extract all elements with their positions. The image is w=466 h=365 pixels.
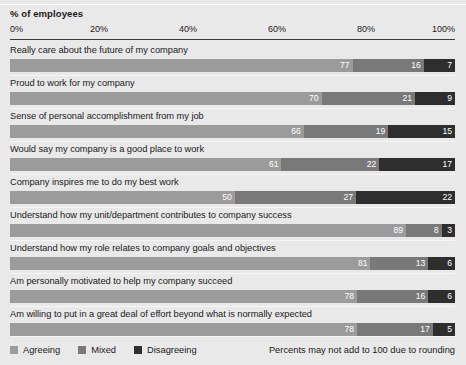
bar-segment-value: 78 bbox=[345, 292, 358, 301]
chart-row: Am personally motivated to help my compa… bbox=[0, 273, 466, 306]
bar-segment-value: 61 bbox=[269, 160, 282, 169]
bar-segment-disagreeing: 15 bbox=[388, 125, 455, 138]
bar-segment-value: 13 bbox=[416, 259, 429, 268]
bar-segment-agreeing: 61 bbox=[10, 158, 281, 171]
x-tick-label: 100% bbox=[432, 24, 455, 34]
bar-segment-value: 16 bbox=[416, 292, 429, 301]
bar-segment-value: 3 bbox=[447, 226, 455, 235]
bar-segment-mixed: 16 bbox=[353, 59, 424, 72]
bar-segment-value: 22 bbox=[367, 160, 380, 169]
bar-segment-agreeing: 50 bbox=[10, 191, 235, 204]
row-label: Understand how my unit/department contri… bbox=[10, 210, 292, 220]
bar-segment-mixed: 16 bbox=[357, 290, 428, 303]
legend-label: Mixed bbox=[91, 345, 116, 355]
bar-segment-value: 21 bbox=[402, 94, 415, 103]
bar-segment-value: 6 bbox=[447, 259, 455, 268]
chart-row: Would say my company is a good place to … bbox=[0, 141, 466, 174]
chart-row: Company inspires me to do my best work50… bbox=[0, 174, 466, 207]
x-tick-label: 80% bbox=[357, 24, 375, 34]
bar-segment-value: 6 bbox=[447, 292, 455, 301]
bar-segment-value: 16 bbox=[411, 61, 424, 70]
bar-segment-value: 8 bbox=[434, 226, 442, 235]
employee-engagement-chart: % of employees 0%20%40%60%80%100% Really… bbox=[0, 0, 466, 365]
row-divider bbox=[10, 273, 455, 274]
bar-segment-value: 89 bbox=[393, 226, 406, 235]
bar-segment-value: 15 bbox=[442, 127, 455, 136]
row-divider bbox=[10, 75, 455, 76]
row-divider bbox=[10, 174, 455, 175]
row-label: Understand how my role relates to compan… bbox=[10, 243, 276, 253]
row-divider bbox=[10, 141, 455, 142]
x-tick-label: 0% bbox=[10, 24, 23, 34]
bar-segment-agreeing: 81 bbox=[10, 257, 370, 270]
bar-segment-value: 50 bbox=[222, 193, 235, 202]
stacked-bar: 612217 bbox=[10, 158, 455, 171]
bar-segment-value: 17 bbox=[442, 160, 455, 169]
bar-segment-value: 77 bbox=[340, 61, 353, 70]
bar-segment-agreeing: 89 bbox=[10, 224, 406, 237]
bar-segment-agreeing: 78 bbox=[10, 323, 357, 336]
bar-segment-mixed: 19 bbox=[304, 125, 389, 138]
chart-footnote: Percents may not add to 100 due to round… bbox=[269, 343, 455, 357]
legend-swatch-icon bbox=[78, 346, 86, 354]
bar-segment-agreeing: 78 bbox=[10, 290, 357, 303]
row-label: Proud to work for my company bbox=[10, 78, 135, 88]
row-divider bbox=[10, 306, 455, 307]
bar-segment-value: 81 bbox=[358, 259, 371, 268]
stacked-bar: 502722 bbox=[10, 191, 455, 204]
x-tick-label: 20% bbox=[90, 24, 108, 34]
bar-segment-disagreeing: 9 bbox=[415, 92, 455, 105]
chart-row: Sense of personal accomplishment from my… bbox=[0, 108, 466, 141]
bar-segment-value: 22 bbox=[442, 193, 455, 202]
row-divider bbox=[10, 207, 455, 208]
legend-swatch-icon bbox=[134, 346, 142, 354]
x-axis-tick-labels: 0%20%40%60%80%100% bbox=[10, 24, 455, 36]
row-divider bbox=[10, 108, 455, 109]
chart-row: Proud to work for my company70219 bbox=[0, 75, 466, 108]
bar-segment-value: 17 bbox=[420, 325, 433, 334]
row-label: Am personally motivated to help my compa… bbox=[10, 276, 232, 286]
stacked-bar: 78175 bbox=[10, 323, 455, 336]
stacked-bar: 661915 bbox=[10, 125, 455, 138]
bar-segment-disagreeing: 6 bbox=[428, 257, 455, 270]
row-divider bbox=[10, 240, 455, 241]
bar-segment-value: 27 bbox=[344, 193, 357, 202]
bar-segment-value: 9 bbox=[447, 94, 455, 103]
stacked-bar: 70219 bbox=[10, 92, 455, 105]
bar-segment-mixed: 27 bbox=[235, 191, 356, 204]
chart-row: Understand how my role relates to compan… bbox=[0, 240, 466, 273]
chart-row: Really care about the future of my compa… bbox=[0, 42, 466, 75]
bar-segment-mixed: 17 bbox=[357, 323, 433, 336]
row-label: Sense of personal accomplishment from my… bbox=[10, 111, 204, 121]
bar-segment-agreeing: 66 bbox=[10, 125, 304, 138]
bar-segment-disagreeing: 3 bbox=[442, 224, 455, 237]
legend-item: Agreeing bbox=[10, 345, 60, 355]
footer-divider bbox=[10, 336, 455, 337]
bar-segment-disagreeing: 22 bbox=[356, 191, 455, 204]
bar-segment-value: 70 bbox=[309, 94, 322, 103]
bar-segment-value: 66 bbox=[291, 127, 304, 136]
bar-segment-value: 7 bbox=[447, 61, 455, 70]
bar-segment-mixed: 22 bbox=[281, 158, 379, 171]
legend-swatch-icon bbox=[10, 346, 18, 354]
row-label: Really care about the future of my compa… bbox=[10, 45, 188, 55]
bar-segment-value: 19 bbox=[376, 127, 389, 136]
bar-segment-agreeing: 77 bbox=[10, 59, 353, 72]
chart-legend: AgreeingMixedDisagreeing bbox=[10, 343, 215, 357]
bar-segment-agreeing: 70 bbox=[10, 92, 322, 105]
x-tick-label: 40% bbox=[179, 24, 197, 34]
bar-segment-disagreeing: 17 bbox=[379, 158, 455, 171]
chart-row: Understand how my unit/department contri… bbox=[0, 207, 466, 240]
legend-item: Disagreeing bbox=[134, 345, 197, 355]
stacked-bar: 81136 bbox=[10, 257, 455, 270]
legend-label: Agreeing bbox=[23, 345, 60, 355]
bar-segment-mixed: 21 bbox=[322, 92, 415, 105]
bar-segment-value: 5 bbox=[447, 325, 455, 334]
stacked-bar: 77167 bbox=[10, 59, 455, 72]
legend-item: Mixed bbox=[78, 345, 116, 355]
stacked-bar: 8983 bbox=[10, 224, 455, 237]
bar-segment-disagreeing: 5 bbox=[433, 323, 455, 336]
bar-segment-value: 78 bbox=[345, 325, 358, 334]
bar-segment-disagreeing: 7 bbox=[424, 59, 455, 72]
chart-rows: Really care about the future of my compa… bbox=[0, 42, 466, 339]
